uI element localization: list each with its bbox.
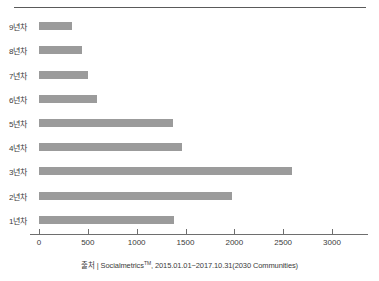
top-divider: [14, 7, 366, 8]
x-axis-tick-label: 0: [37, 238, 41, 247]
bar: [39, 143, 182, 151]
bar-chart: 9년차8년차7년차6년차5년차4년차3년차2년차1년차 050010001500…: [0, 0, 379, 281]
source-prefix: 출처 | Socialmetrics: [81, 261, 144, 270]
category-label: 2년차: [9, 190, 37, 201]
x-axis-tick: [186, 229, 187, 235]
category-label: 9년차: [9, 21, 37, 32]
bar: [39, 192, 232, 200]
category-label: 7년차: [9, 69, 37, 80]
x-axis-tick-label: 1000: [128, 238, 146, 247]
chart-row: 8년차: [0, 38, 379, 62]
trademark-symbol: TM: [144, 260, 151, 266]
chart-row: 2년차: [0, 184, 379, 208]
x-axis-tick-label: 3000: [323, 238, 341, 247]
bar: [39, 95, 97, 103]
x-axis-tick-label: 2000: [225, 238, 243, 247]
chart-row: 6년차: [0, 87, 379, 111]
bar: [39, 119, 173, 127]
chart-row: 7년차: [0, 62, 379, 86]
x-axis-tick-label: 2500: [274, 238, 292, 247]
chart-row: 3년차: [0, 159, 379, 183]
bar: [39, 71, 88, 79]
category-label: 6년차: [9, 93, 37, 104]
x-axis-tick-label: 500: [81, 238, 94, 247]
chart-row: 5년차: [0, 111, 379, 135]
source-caption: 출처 | SocialmetricsTM, 2015.01.01~2017.10…: [0, 259, 379, 270]
chart-row: 4년차: [0, 135, 379, 159]
x-axis-tick: [332, 229, 333, 235]
source-suffix: , 2015.01.01~2017.10.31(2030 Communities…: [151, 261, 298, 270]
chart-row: 9년차: [0, 14, 379, 38]
x-axis-tick: [88, 229, 89, 235]
bar: [39, 167, 292, 175]
x-axis-tick: [234, 229, 235, 235]
bar: [39, 216, 174, 224]
chart-row: 1년차: [0, 208, 379, 232]
category-label: 1년차: [9, 214, 37, 225]
x-axis-tick-label: 1500: [177, 238, 195, 247]
category-label: 8년차: [9, 45, 37, 56]
x-axis-tick: [137, 229, 138, 235]
x-axis-line: [30, 234, 368, 235]
category-label: 3년차: [9, 166, 37, 177]
x-axis-tick: [39, 229, 40, 235]
category-label: 5년차: [9, 117, 37, 128]
x-axis-tick: [283, 229, 284, 235]
bar: [39, 46, 82, 54]
bar: [39, 22, 72, 30]
plot-area: 9년차8년차7년차6년차5년차4년차3년차2년차1년차: [0, 14, 379, 232]
category-label: 4년차: [9, 142, 37, 153]
